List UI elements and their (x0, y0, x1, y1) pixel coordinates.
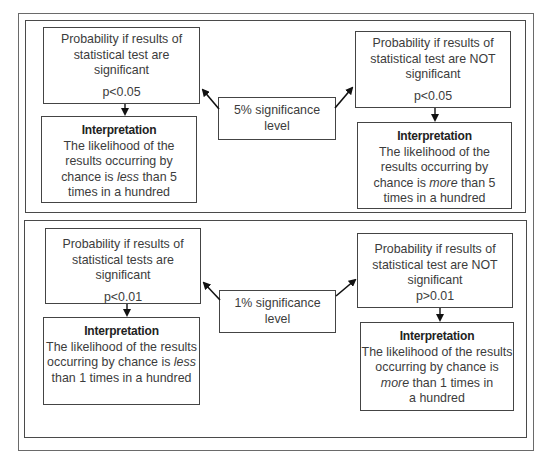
arrow-to-significant-5 (203, 90, 219, 109)
arrow-to-not-significant-5 (335, 88, 352, 108)
connector-arrows (0, 0, 550, 464)
arrow-to-not-significant-1 (336, 280, 355, 296)
arrow-to-significant-1 (204, 283, 220, 300)
